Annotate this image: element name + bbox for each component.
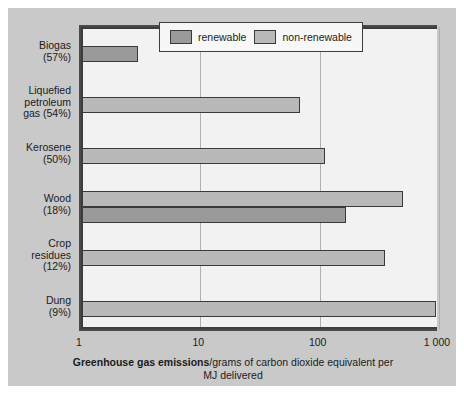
y-axis-line xyxy=(81,27,83,329)
bar-nonrenewable xyxy=(81,301,436,317)
category-label-line: gas (54%) xyxy=(7,108,71,120)
category-label-dung: Dung (9%) xyxy=(7,295,71,318)
bar-renewable xyxy=(81,46,138,62)
category-label-lpg: Liquefied petroleum gas (54%) xyxy=(7,85,71,120)
category-label-line: Crop xyxy=(7,238,71,250)
chart-figure: Biogas (57%) Liquefied petroleum gas (54… xyxy=(8,8,456,386)
bar-nonrenewable xyxy=(81,191,403,207)
category-label-line: Dung xyxy=(7,295,71,307)
bar-nonrenewable xyxy=(81,148,325,164)
x-tick-label: 10 xyxy=(192,336,204,348)
category-label-biogas: Biogas (57%) xyxy=(7,40,71,63)
plot-canvas xyxy=(81,27,437,329)
bar-nonrenewable xyxy=(81,250,385,266)
x-axis-line xyxy=(81,327,437,329)
category-label-line: Kerosene xyxy=(7,142,71,154)
category-label-line: Liquefied xyxy=(7,85,71,97)
x-tick-label: 1 xyxy=(76,336,82,348)
legend-item-non-renewable: non-renewable xyxy=(254,30,351,44)
category-label-wood: Wood (18%) xyxy=(7,193,71,216)
gridline xyxy=(439,27,440,329)
legend-item-renewable: renewable xyxy=(170,30,246,44)
x-axis-title-bold: Greenhouse gas emissions xyxy=(73,356,210,368)
x-axis-title-rest: /grams of carbon dioxide equivalent per … xyxy=(203,356,393,381)
category-label-line: Wood xyxy=(7,193,71,205)
legend-swatch-renewable xyxy=(170,30,192,44)
bar-nonrenewable xyxy=(81,97,300,113)
category-label-line: Biogas xyxy=(7,40,71,52)
bar-renewable xyxy=(81,207,346,223)
x-axis-title: Greenhouse gas emissions/grams of carbon… xyxy=(68,356,398,382)
x-tick-label: 100 xyxy=(309,336,327,348)
plot-area xyxy=(79,25,437,331)
gridline xyxy=(320,27,321,329)
category-label-line: (9%) xyxy=(7,307,71,319)
category-label-line: (18%) xyxy=(7,205,71,217)
legend-swatch-non-renewable xyxy=(254,30,276,44)
category-label-line: (12%) xyxy=(7,261,71,273)
legend-label-renewable: renewable xyxy=(198,31,246,43)
category-label-line: (50%) xyxy=(7,154,71,166)
x-tick-label: 1 000 xyxy=(424,336,450,348)
gridline xyxy=(200,27,201,329)
category-label-line: (57%) xyxy=(7,52,71,64)
category-label-kerosene: Kerosene (50%) xyxy=(7,142,71,165)
category-label-crop-residues: Crop residues (12%) xyxy=(7,238,71,273)
legend-label-non-renewable: non-renewable xyxy=(282,31,351,43)
chart-legend: renewable non-renewable xyxy=(159,22,363,52)
